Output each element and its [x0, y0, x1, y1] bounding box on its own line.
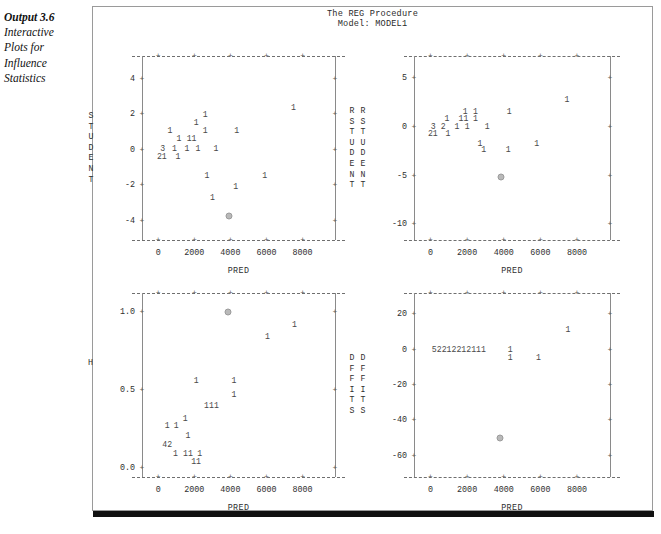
x-tick-label: 8000 [567, 249, 587, 257]
data-point[interactable]: 1 [232, 377, 237, 385]
data-point[interactable]: 1 [481, 146, 486, 154]
data-point[interactable]: 1 [177, 135, 182, 143]
data-point[interactable]: 1 [485, 122, 490, 130]
y-tick-label: 20 [374, 310, 407, 318]
data-point[interactable]: 1 [291, 104, 296, 112]
data-point[interactable]: 1 [445, 130, 450, 138]
data-point[interactable]: 1 [195, 145, 200, 153]
y-tick-left: + [140, 308, 145, 316]
data-point[interactable]: 1 [167, 127, 172, 135]
y-tick-label: 0 [374, 345, 407, 353]
data-point[interactable]: 1 [183, 414, 188, 422]
plot-student-vs-pred[interactable]: ++4++2++0++-2++-4++0++2000++4000++6000++… [100, 40, 385, 275]
data-point[interactable]: 1 [173, 450, 178, 458]
x-tick-bottom: + [300, 236, 305, 244]
x-tick-label: 0 [156, 486, 161, 494]
data-point[interactable]: 1 [534, 140, 539, 148]
data-point[interactable]: 1 [262, 172, 267, 180]
y-tick-left: + [140, 181, 145, 189]
plot-h-vs-pred[interactable]: ++1.0++0.5++0.0++0++2000++4000++6000++80… [100, 277, 385, 512]
data-point[interactable]: 1 [292, 321, 297, 329]
data-point[interactable]: 1 [233, 183, 238, 191]
x-tick-bottom: + [465, 473, 470, 481]
margin-caption-line-4: Statistics [4, 71, 82, 86]
x-tick-bottom: + [501, 236, 506, 244]
x-tick-bottom: + [538, 473, 543, 481]
y-tick-right: + [608, 123, 613, 131]
data-point[interactable]: 1 [473, 115, 478, 123]
y-tick-left: + [412, 74, 417, 82]
data-point[interactable]: 1 [232, 391, 237, 399]
y-axis-title-left: R S T U D E N T [358, 106, 368, 191]
data-point[interactable]: 1 [508, 354, 513, 362]
data-point[interactable]: 1 [234, 127, 239, 135]
plot-frame-top [404, 56, 620, 57]
data-point[interactable]: 52212212111 [432, 346, 486, 354]
y-tick-right: + [333, 217, 338, 225]
data-point[interactable]: 1 [176, 153, 181, 161]
x-tick-top: + [192, 289, 197, 297]
y-tick-left: + [140, 217, 145, 225]
x-tick-top: + [465, 52, 470, 60]
data-point[interactable]: 1 [465, 122, 470, 130]
x-tick-label: 8000 [292, 249, 312, 257]
data-point[interactable]: 21 [428, 130, 438, 138]
plot-rstudent-vs-pred[interactable]: ++5++0++-5++-10++0++2000++4000++6000++80… [378, 40, 653, 275]
x-tick-label: 6000 [256, 486, 276, 494]
y-tick-left: + [140, 146, 145, 154]
data-point[interactable]: 1 [565, 326, 570, 334]
x-tick-top: + [192, 52, 197, 60]
margin-caption-line-3: Influence [4, 56, 82, 71]
output-page: Output 3.6 Interactive Plots for Influen… [0, 0, 661, 534]
x-tick-top: + [264, 52, 269, 60]
data-point[interactable]: 1 [265, 333, 270, 341]
selected-observation-marker[interactable] [224, 308, 231, 315]
y-tick-right: + [333, 181, 338, 189]
data-point[interactable]: 1 [194, 377, 199, 385]
data-point[interactable]: 111 [204, 402, 219, 410]
data-point[interactable]: 1 [186, 432, 191, 440]
y-tick-left: + [412, 381, 417, 389]
y-tick-left: + [412, 172, 417, 180]
data-point[interactable]: 1 [564, 96, 569, 104]
x-tick-label: 0 [156, 249, 161, 257]
y-tick-left: + [412, 123, 417, 131]
data-point[interactable]: 1 [507, 108, 512, 116]
plot-dffits-vs-pred[interactable]: ++20++0++-20++-40++-60++0++2000++4000++6… [378, 277, 653, 512]
data-point[interactable]: 1 [204, 172, 209, 180]
data-point[interactable]: 1 [165, 422, 170, 430]
data-point[interactable]: 1 [174, 422, 179, 430]
plot-frame-top [132, 56, 345, 57]
x-tick-top: + [228, 52, 233, 60]
data-point[interactable]: 1 [536, 354, 541, 362]
plot-frame-bottom [404, 240, 620, 241]
data-point[interactable]: 1 [455, 122, 460, 130]
data-point[interactable]: 21 [157, 153, 167, 161]
data-point[interactable]: 11 [187, 135, 197, 143]
y-tick-right: + [333, 386, 338, 394]
x-tick-top: + [575, 52, 580, 60]
x-tick-label: 6000 [530, 486, 550, 494]
y-axis-title-left: H [88, 359, 93, 367]
data-point[interactable]: 1 [185, 145, 190, 153]
x-tick-top: + [428, 52, 433, 60]
selected-observation-marker[interactable] [498, 173, 505, 180]
data-point[interactable]: 1 [203, 127, 208, 135]
data-point[interactable]: 1 [203, 111, 208, 119]
x-tick-bottom: + [228, 236, 233, 244]
data-point[interactable]: 1 [210, 193, 215, 201]
data-point[interactable]: 1 [194, 119, 199, 127]
y-tick-label: 4 [102, 75, 135, 83]
selected-observation-marker[interactable] [497, 435, 504, 442]
margin-caption-line-2: Plots for [4, 40, 82, 55]
data-point[interactable]: 11 [191, 458, 201, 466]
selected-observation-marker[interactable] [225, 213, 232, 220]
data-point[interactable]: 42 [162, 441, 172, 449]
y-tick-left: + [412, 346, 417, 354]
data-point[interactable]: 1 [506, 146, 511, 154]
x-tick-top: + [501, 52, 506, 60]
margin-caption-lead: Output 3.6 [4, 10, 82, 25]
x-tick-label: 0 [428, 249, 433, 257]
x-tick-top: + [300, 52, 305, 60]
data-point[interactable]: 1 [213, 145, 218, 153]
